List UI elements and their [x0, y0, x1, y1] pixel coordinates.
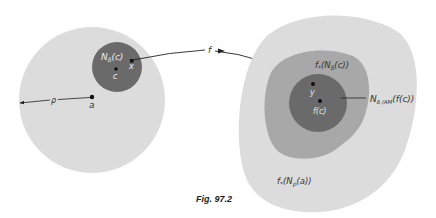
inner-ball-label: Nδ /AM(f(c)): [370, 94, 414, 105]
point-y: [311, 82, 315, 86]
right-space: f*(Nδ(c)) y f(c) Nδ /AM(f(c)) f*(Nρ(a)): [239, 16, 417, 213]
point-y-label: y: [309, 88, 315, 97]
point-x-label: x: [128, 62, 134, 71]
point-fc-label: f(c): [313, 107, 326, 116]
inner-ball-label: Nδ(c): [101, 52, 123, 63]
inner-ball-n-delta-am-fc: [289, 74, 347, 132]
inner-ball-n-delta-c: [92, 42, 142, 92]
point-a: [90, 95, 94, 99]
radius-label: ρ: [51, 96, 56, 105]
mapping-arrow-mid-head: [218, 49, 225, 54]
point-a-label: a: [89, 100, 95, 110]
mapping-label: f: [208, 45, 213, 55]
figure-caption: Fig. 97.2: [196, 194, 232, 204]
left-space: ρ a Nδ(c) c x: [19, 27, 165, 173]
point-c-label: c: [113, 72, 118, 81]
figure-97-2: ρ a Nδ(c) c x f f*(Nδ(c)) y: [0, 0, 436, 218]
point-c: [114, 67, 118, 71]
point-fc: [318, 99, 322, 103]
